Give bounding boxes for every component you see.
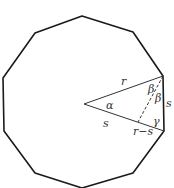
label-beta-1: β <box>147 83 154 96</box>
label-r-minus-s: r−s <box>133 125 153 138</box>
label-beta-2: β <box>154 92 161 105</box>
label-alpha: α <box>106 99 114 112</box>
label-s-radius: s <box>103 117 109 130</box>
label-gamma: γ <box>153 115 160 128</box>
diagram-svg: r α β β s γ s r−s <box>0 0 174 188</box>
decagon-outline <box>3 16 164 188</box>
label-r: r <box>121 75 127 88</box>
label-s-side: s <box>166 97 172 110</box>
decagon-diagram: r α β β s γ s r−s <box>0 0 174 188</box>
